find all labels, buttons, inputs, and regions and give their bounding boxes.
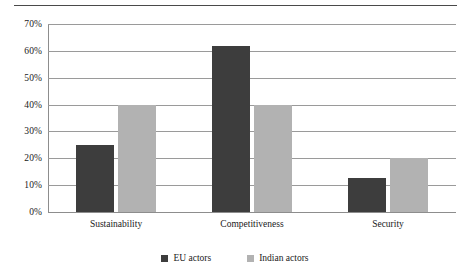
bar-sustainability-indian-actors (118, 105, 156, 212)
x-axis-label-competitiveness: Competitiveness (184, 218, 320, 230)
legend-item-indian-actors[interactable]: Indian actors (247, 252, 308, 264)
x-axis-label-security: Security (320, 218, 456, 230)
bar-competitiveness-eu-actors (212, 46, 250, 213)
bar-competitiveness-indian-actors (254, 105, 292, 212)
gridline-30 (48, 131, 456, 132)
gridline-40 (48, 105, 456, 106)
gridline-0 (48, 212, 456, 213)
grouped-bar-chart: 0%10%20%30%40%50%60%70% SustainabilityCo… (0, 0, 470, 276)
y-tick-label: 40% (24, 100, 42, 110)
y-tick-label: 70% (24, 19, 42, 29)
y-tick-label: 10% (24, 180, 42, 190)
bar-security-eu-actors (348, 178, 386, 212)
legend-swatch-icon (247, 255, 254, 262)
bar-security-indian-actors (390, 158, 428, 212)
gridline-60 (48, 51, 456, 52)
legend-label: Indian actors (259, 252, 308, 264)
legend-swatch-icon (161, 255, 168, 262)
legend-label: EU actors (173, 252, 211, 264)
bar-sustainability-eu-actors (76, 145, 114, 212)
y-tick-label: 20% (24, 153, 42, 163)
y-tick-label: 30% (24, 126, 42, 136)
gridline-70 (48, 24, 456, 25)
plot-area (48, 24, 456, 212)
y-tick-label: 0% (29, 207, 42, 217)
legend-item-eu-actors[interactable]: EU actors (161, 252, 211, 264)
top-divider-rule (14, 5, 457, 6)
gridline-50 (48, 78, 456, 79)
y-tick-label: 60% (24, 46, 42, 56)
x-axis-label-sustainability: Sustainability (48, 218, 184, 230)
chart-legend: EU actorsIndian actors (0, 252, 470, 264)
y-tick-label: 50% (24, 73, 42, 83)
